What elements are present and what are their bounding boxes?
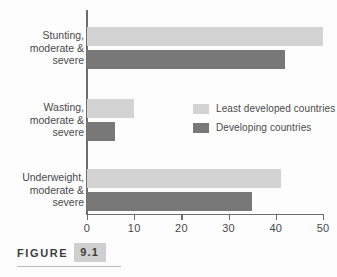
figure-caption-number: 9.1 [74,243,106,262]
x-axis-tick-label: 30 [222,222,235,234]
legend-swatch-icon-least-developed [193,104,209,114]
category-label-line: Wasting, [30,101,84,114]
x-axis-tick [87,215,88,220]
x-axis-tick-label: 40 [269,222,282,234]
legend-item-developing: Developing countries [193,120,335,135]
bar [87,27,323,46]
bar [87,169,281,188]
category-label-line: moderate & [30,42,84,55]
figure-caption: FIGURE 9.1 [17,243,106,262]
x-axis-tick [276,215,277,220]
bar [87,122,115,141]
x-axis-tick [323,215,324,220]
category-label-line: severe [22,196,84,209]
category-label-line: Underweight, [22,171,84,184]
category-label-line: moderate & [30,114,84,127]
legend-item-least-developed: Least developed countries [193,101,335,116]
figure-9-1: 01020304050 Stunting,moderate &severeWas… [0,0,337,277]
y-axis-category-label: Wasting,moderate &severe [30,101,84,139]
bar [87,50,285,69]
y-axis-category-label: Underweight,moderate &severe [22,171,84,209]
chart-plot-area: 01020304050 Stunting,moderate &severeWas… [0,0,337,277]
x-axis-tick [229,215,230,220]
y-axis-category-label: Stunting,moderate &severe [30,29,84,67]
category-label-line: Stunting, [30,29,84,42]
category-label-line: severe [30,126,84,139]
x-axis-tick-label: 50 [317,222,330,234]
bar [87,99,134,118]
x-axis-tick [134,215,135,220]
chart-legend: Least developed countries Developing cou… [193,101,335,139]
legend-swatch-icon-developing [193,123,209,133]
figure-caption-rule [17,266,121,267]
x-axis-line [86,214,324,215]
x-axis-tick-label: 20 [175,222,188,234]
x-axis-tick [181,215,182,220]
figure-caption-word: FIGURE [17,247,68,259]
legend-label-least-developed: Least developed countries [216,103,335,114]
bar [87,192,252,211]
category-label-line: severe [30,54,84,67]
legend-label-developing: Developing countries [216,122,311,133]
x-axis-tick-label: 10 [128,222,141,234]
category-label-line: moderate & [22,184,84,197]
x-axis-tick-label: 0 [84,222,90,234]
